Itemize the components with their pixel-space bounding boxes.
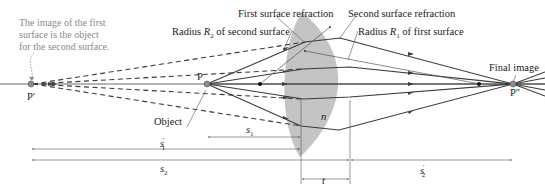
label-s2-prime: s′2 (420, 164, 425, 179)
ray-direction-arrows (48, 47, 414, 119)
annotation-note-line2: surface is the object (19, 29, 129, 41)
label-radius-r1: Radius R1 of first surface (358, 27, 464, 40)
label-s1: s1 (246, 125, 254, 138)
label-p-prime: P′ (27, 92, 35, 103)
label-first-surface-refraction: First surface refraction (238, 9, 334, 20)
label-object: Object (154, 117, 182, 128)
label-second-surface-refraction: Second surface refraction (348, 9, 455, 20)
annotation-note: The image of the first surface is the ob… (19, 17, 129, 53)
label-t: t (322, 176, 325, 187)
label-s2: s2 (160, 164, 168, 177)
label-p: P (197, 72, 203, 83)
annotation-note-line1: The image of the first (19, 17, 129, 29)
real-rays (207, 38, 545, 130)
annotation-note-line3: for the second surface. (19, 41, 129, 53)
label-final-image: Final image (489, 63, 539, 74)
point-p-prime (28, 81, 34, 87)
label-s1-prime: s′1 (160, 137, 165, 152)
label-p-double-prime: P″ (510, 88, 520, 99)
label-radius-r2: Radius R2 of second surface (172, 27, 290, 40)
annotation-arrow (30, 53, 34, 79)
point-p (204, 81, 210, 87)
label-lens-index: n (321, 112, 326, 123)
center-of-curvature-r1 (477, 82, 481, 86)
center-of-curvature-r2 (258, 82, 262, 86)
